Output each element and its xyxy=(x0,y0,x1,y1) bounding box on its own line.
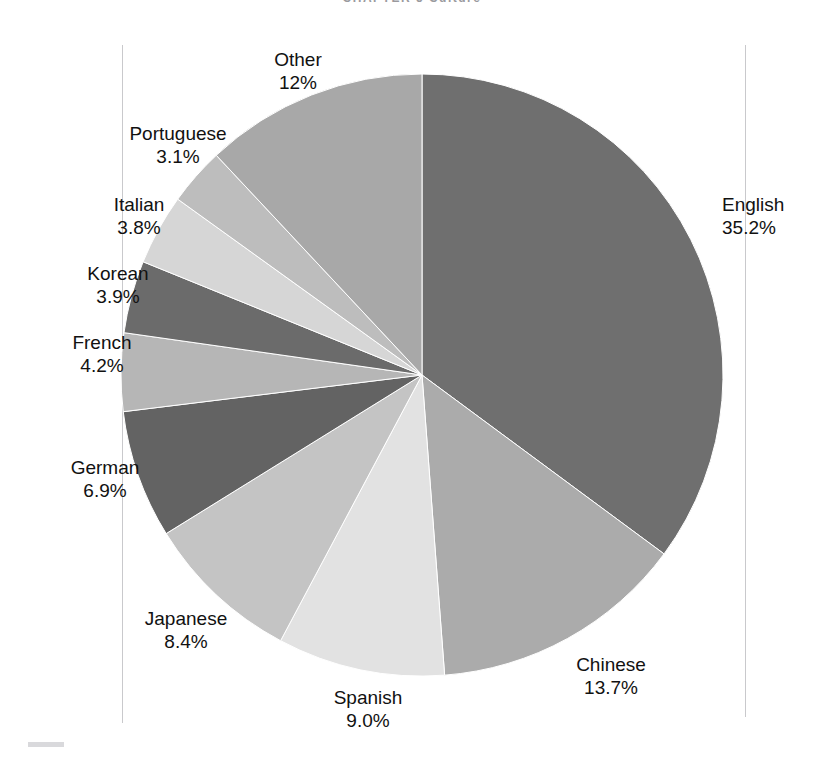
pie-label-name-german: German xyxy=(71,456,140,479)
pie-label-value-korean: 3.9% xyxy=(87,285,148,308)
pie-label-japanese: Japanese8.4% xyxy=(145,607,227,653)
pie-label-name-other: Other xyxy=(274,48,322,71)
pie-label-value-french: 4.2% xyxy=(72,354,131,377)
pie-label-english: English35.2% xyxy=(722,193,784,239)
pie-label-value-german: 6.9% xyxy=(71,479,140,502)
pie-label-name-french: French xyxy=(72,331,131,354)
pie-label-name-portuguese: Portuguese xyxy=(129,122,226,145)
pie-label-name-italian: Italian xyxy=(114,193,165,216)
pie-label-french: French4.2% xyxy=(72,331,131,377)
pie-label-value-italian: 3.8% xyxy=(114,216,165,239)
pie-label-portuguese: Portuguese3.1% xyxy=(129,122,226,168)
pie-label-italian: Italian3.8% xyxy=(114,193,165,239)
pie-label-value-spanish: 9.0% xyxy=(334,709,403,732)
page-canvas: CHAPTER 5 Culture Other12%Portuguese3.1%… xyxy=(0,0,824,768)
pie-label-name-korean: Korean xyxy=(87,262,148,285)
pie-label-name-english: English xyxy=(722,193,784,216)
pie-label-value-english: 35.2% xyxy=(722,216,784,239)
pie-chart-svg xyxy=(0,0,824,768)
pie-label-value-japanese: 8.4% xyxy=(145,630,227,653)
pie-label-name-spanish: Spanish xyxy=(334,686,403,709)
pie-label-spanish: Spanish9.0% xyxy=(334,686,403,732)
pie-label-name-chinese: Chinese xyxy=(576,653,646,676)
pie-label-chinese: Chinese13.7% xyxy=(576,653,646,699)
pie-label-korean: Korean3.9% xyxy=(87,262,148,308)
pie-label-value-portuguese: 3.1% xyxy=(129,145,226,168)
pie-label-value-other: 12% xyxy=(274,71,322,94)
pie-label-name-japanese: Japanese xyxy=(145,607,227,630)
pie-chart xyxy=(0,0,824,768)
pie-label-other: Other12% xyxy=(274,48,322,94)
pie-label-value-chinese: 13.7% xyxy=(576,676,646,699)
pie-label-german: German6.9% xyxy=(71,456,140,502)
